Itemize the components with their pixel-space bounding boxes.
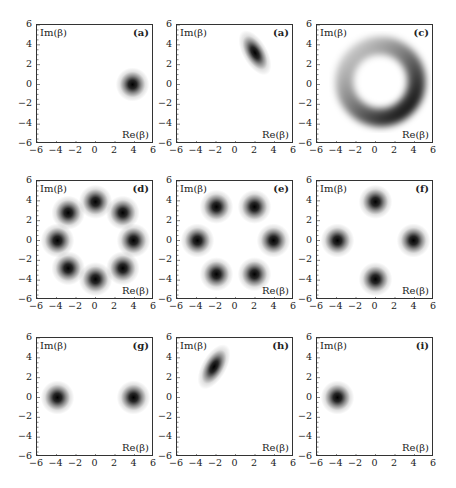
x-tick-label: 0 [86, 300, 104, 311]
x-axis-label: Re(β) [122, 442, 149, 453]
x-tick-label: 2 [385, 457, 403, 468]
x-tick-label: 2 [105, 300, 123, 311]
y-tick-label: 2 [296, 371, 312, 382]
x-tick-label: −4 [47, 144, 65, 155]
x-tick-label: −2 [206, 300, 224, 311]
y-axis-label: Im(β) [320, 27, 347, 38]
x-axis-label: Re(β) [262, 129, 289, 140]
plot-area: Im(β)Re(β)(d) [36, 180, 153, 299]
y-tick-label: 6 [16, 18, 32, 29]
x-tick-label: −2 [66, 300, 84, 311]
y-tick-label: 0 [296, 391, 312, 402]
plot-panel: Im(β)Re(β)(d)6420−2−4−6−6−4−20246 [36, 180, 153, 299]
y-tick-label: 6 [296, 18, 312, 29]
y-tick-label: 4 [156, 194, 172, 205]
state-blob [321, 380, 355, 414]
state-blob [117, 380, 151, 414]
y-tick-label: 4 [16, 194, 32, 205]
x-tick-label: 0 [226, 300, 244, 311]
plot-area: Im(β)Re(β)(a) [36, 24, 153, 143]
x-tick-label: 4 [125, 300, 143, 311]
x-axis-label: Re(β) [402, 442, 429, 453]
y-tick-label: −4 [296, 430, 312, 441]
plot-area: Im(β)Re(β)(g) [36, 337, 153, 456]
plot-area: Im(β)Re(β)(c) [316, 24, 433, 143]
y-tick-label: 4 [16, 38, 32, 49]
plot-panel: Im(β)Re(β)(h)6420−2−4−6−6−4−20246 [176, 337, 293, 456]
x-tick-label: 4 [125, 457, 143, 468]
y-tick-label: 6 [156, 18, 172, 29]
state-blob [257, 223, 291, 257]
panel-label: (h) [272, 340, 289, 351]
y-tick-label: 6 [16, 174, 32, 185]
x-tick-label: −4 [47, 300, 65, 311]
x-tick-label: −6 [167, 144, 185, 155]
y-tick-label: −2 [296, 97, 312, 108]
y-tick-label: 2 [156, 214, 172, 225]
plot-area: Im(β)Re(β)(e) [176, 180, 293, 299]
y-axis-label: Im(β) [40, 340, 67, 351]
y-tick-label: 6 [296, 174, 312, 185]
y-tick-label: 2 [16, 371, 32, 382]
y-tick-label: 2 [156, 371, 172, 382]
y-tick-label: 2 [156, 58, 172, 69]
y-tick-label: −2 [156, 97, 172, 108]
x-tick-label: 4 [405, 144, 423, 155]
state-blob [359, 185, 393, 219]
x-tick-label: 2 [105, 144, 123, 155]
x-tick-label: 4 [125, 144, 143, 155]
x-tick-label: −4 [327, 300, 345, 311]
x-axis-label: Re(β) [262, 442, 289, 453]
y-tick-label: 4 [156, 38, 172, 49]
x-tick-label: 2 [105, 457, 123, 468]
y-tick-label: −2 [296, 253, 312, 264]
x-tick-label: −4 [327, 144, 345, 155]
plot-area: Im(β)Re(β)(a) [176, 24, 293, 143]
y-tick-label: 4 [296, 38, 312, 49]
y-axis-label: Im(β) [40, 27, 67, 38]
y-tick-label: 0 [156, 234, 172, 245]
y-tick-label: −4 [16, 117, 32, 128]
y-tick-label: 0 [296, 78, 312, 89]
x-tick-label: 0 [366, 144, 384, 155]
y-tick-label: −2 [16, 253, 32, 264]
x-tick-label: 2 [385, 300, 403, 311]
x-axis-label: Re(β) [122, 129, 149, 140]
panel-label: (f) [415, 183, 429, 194]
y-tick-label: 6 [16, 331, 32, 342]
state-blob [238, 190, 272, 224]
state-blob [181, 223, 215, 257]
x-tick-label: −4 [187, 300, 205, 311]
y-axis-label: Im(β) [180, 340, 207, 351]
y-tick-label: −4 [296, 117, 312, 128]
y-tick-label: −2 [16, 97, 32, 108]
panel-label: (c) [413, 27, 429, 38]
x-tick-label: 0 [86, 457, 104, 468]
state-blob [200, 190, 234, 224]
y-tick-label: 6 [156, 174, 172, 185]
state-blob [200, 257, 234, 291]
x-tick-label: 4 [265, 144, 283, 155]
y-tick-label: −4 [156, 117, 172, 128]
x-axis-label: Re(β) [402, 285, 429, 296]
y-tick-label: 0 [16, 234, 32, 245]
plot-area: Im(β)Re(β)(f) [316, 180, 433, 299]
x-tick-label: −6 [27, 300, 45, 311]
y-axis-label: Im(β) [320, 340, 347, 351]
x-tick-label: 2 [245, 300, 263, 311]
panel-label: (g) [133, 340, 149, 351]
state-blob [106, 251, 140, 285]
x-tick-label: −4 [327, 457, 345, 468]
y-tick-label: 2 [16, 214, 32, 225]
y-tick-label: −4 [16, 273, 32, 284]
x-tick-label: −6 [307, 300, 325, 311]
plot-panel: Im(β)Re(β)(a)6420−2−4−6−6−4−20246 [176, 24, 293, 143]
x-axis-label: Re(β) [402, 129, 429, 140]
state-blob [397, 223, 431, 257]
y-tick-label: −2 [156, 410, 172, 421]
x-tick-label: −2 [206, 457, 224, 468]
x-tick-label: −4 [187, 144, 205, 155]
y-tick-label: 4 [296, 194, 312, 205]
y-tick-label: 4 [16, 351, 32, 362]
y-axis-label: Im(β) [180, 183, 207, 194]
